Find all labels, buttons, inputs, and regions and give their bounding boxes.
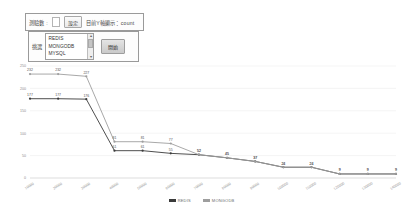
- set-button[interactable]: 設定: [64, 16, 82, 28]
- data-label: 177: [27, 93, 33, 97]
- data-point[interactable]: [85, 98, 87, 100]
- data-label: 37: [253, 156, 257, 160]
- chart-legend: REDISMONGODB: [0, 198, 403, 203]
- data-point[interactable]: [142, 150, 144, 152]
- data-label: 55: [169, 148, 173, 152]
- x-axis-tick: 10000: [24, 182, 35, 191]
- y-axis-tick: 250: [20, 64, 26, 68]
- test-count-label: 測驗數 :: [29, 19, 48, 26]
- line-chart: 0501001502002501000020000300004000050000…: [0, 60, 403, 210]
- data-label: 61: [113, 145, 117, 149]
- x-axis-tick: 80000: [221, 182, 232, 191]
- caret-up-icon[interactable]: ▲: [88, 34, 93, 38]
- data-label: 24: [281, 162, 285, 166]
- x-axis-tick: 40000: [109, 182, 120, 191]
- test-count-panel: 測驗數 : 設定 目前Y軸顯示：count: [25, 13, 144, 31]
- database-select-panel: 挑選 REDIS MONGODB MYSQL ▲ ▼ 開始: [28, 31, 139, 62]
- legend-item[interactable]: REDIS: [169, 198, 191, 203]
- x-axis-tick: 130000: [361, 181, 373, 191]
- data-point[interactable]: [367, 173, 369, 175]
- legend-label: MONGODB: [212, 198, 235, 203]
- y-axis-tick: 200: [20, 87, 26, 91]
- x-axis-tick: 90000: [249, 182, 260, 191]
- data-point[interactable]: [142, 141, 144, 143]
- y-axis-display-label: 目前Y軸顯示：count: [86, 19, 135, 26]
- test-count-input[interactable]: [52, 17, 60, 27]
- data-label: 24: [310, 162, 314, 166]
- database-listbox[interactable]: REDIS MONGODB MYSQL ▲ ▼: [45, 33, 94, 60]
- data-point[interactable]: [85, 75, 87, 77]
- x-axis-tick: 140000: [389, 181, 401, 191]
- listbox-scrollbar[interactable]: ▲ ▼: [87, 34, 93, 59]
- x-axis-tick: 60000: [165, 182, 176, 191]
- legend-item[interactable]: MONGODB: [203, 198, 235, 203]
- x-axis-tick: 20000: [52, 182, 63, 191]
- x-axis-tick: 30000: [80, 182, 91, 191]
- legend-label: REDIS: [178, 198, 191, 203]
- data-label: 232: [27, 68, 33, 72]
- data-label: 81: [113, 136, 117, 140]
- data-label: 81: [141, 136, 145, 140]
- data-point[interactable]: [57, 98, 59, 100]
- data-label: 77: [169, 138, 173, 142]
- data-point[interactable]: [226, 157, 228, 159]
- data-label: 9: [367, 168, 369, 172]
- data-label: 176: [83, 94, 89, 98]
- data-point[interactable]: [395, 173, 397, 175]
- data-point[interactable]: [29, 98, 31, 100]
- caret-down-icon[interactable]: ▼: [88, 55, 93, 59]
- series-line-mongodb: [30, 74, 396, 174]
- scrollbar-thumb[interactable]: [88, 39, 93, 48]
- y-axis-tick: 100: [20, 132, 26, 136]
- data-label: 61: [141, 145, 145, 149]
- data-point[interactable]: [254, 160, 256, 162]
- data-label: 45: [225, 152, 229, 156]
- data-point[interactable]: [198, 154, 200, 156]
- data-label: 9: [339, 168, 341, 172]
- data-point[interactable]: [170, 142, 172, 144]
- data-point[interactable]: [57, 73, 59, 75]
- chart-svg: 0501001502002501000020000300004000050000…: [0, 60, 403, 210]
- data-point[interactable]: [310, 166, 312, 168]
- data-label: 232: [55, 68, 61, 72]
- select-label: 挑選: [32, 43, 42, 50]
- data-label: 52: [197, 149, 201, 153]
- x-axis-tick: 50000: [137, 182, 148, 191]
- x-axis-tick: 120000: [333, 181, 345, 191]
- x-axis-tick: 100000: [277, 181, 289, 191]
- y-axis-tick: 150: [20, 109, 26, 113]
- x-axis-tick: 110000: [305, 181, 317, 191]
- y-axis-tick: 0: [24, 176, 26, 180]
- data-point[interactable]: [29, 73, 31, 75]
- data-point[interactable]: [113, 150, 115, 152]
- data-label: 227: [83, 71, 89, 75]
- data-label: 177: [55, 93, 61, 97]
- y-axis-tick: 50: [22, 154, 26, 158]
- data-label: 9: [395, 168, 397, 172]
- x-axis-tick: 70000: [193, 182, 204, 191]
- data-point[interactable]: [282, 166, 284, 168]
- start-button[interactable]: 開始: [101, 39, 125, 54]
- legend-swatch: [203, 199, 210, 202]
- data-point[interactable]: [339, 173, 341, 175]
- data-point[interactable]: [170, 152, 172, 154]
- series-line-redis: [30, 99, 396, 174]
- legend-swatch: [169, 199, 176, 202]
- data-point[interactable]: [113, 141, 115, 143]
